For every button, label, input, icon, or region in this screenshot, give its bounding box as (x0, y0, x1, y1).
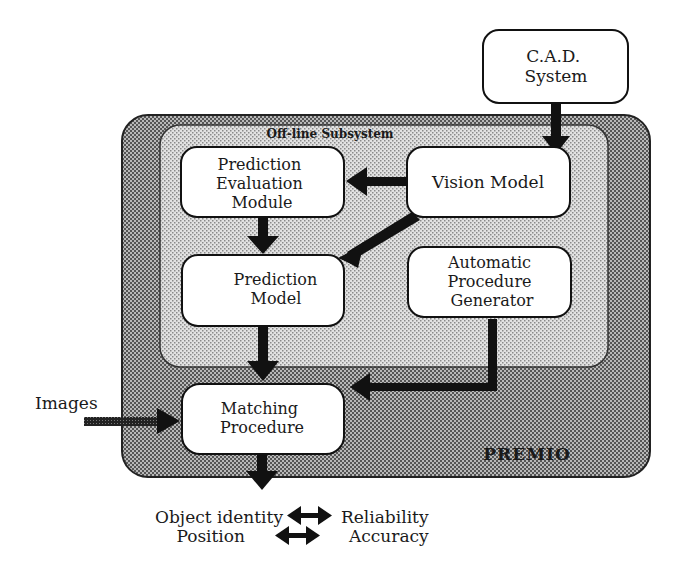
node-matching-procedure: Matching Procedure (182, 384, 344, 454)
matching-line-1: Matching (221, 399, 298, 418)
pem-line-1: Prediction (218, 155, 302, 174)
svg-text:Automatic Procedure: Automatic Procedure Generator (447, 253, 537, 310)
node-vision-model: Vision Model (407, 147, 570, 217)
apg-line-2: Procedure (447, 272, 531, 291)
output-object-identity: Object identity (155, 507, 283, 527)
svg-text:Matching Procedure: Matching Procedure (220, 399, 304, 437)
pem-line-3: Module (231, 193, 292, 212)
matching-line-2: Procedure (220, 418, 304, 437)
vision-line-1: Vision Model (431, 172, 544, 192)
output-position: Position (176, 526, 245, 546)
svg-text:C.A.D. System: C.A.D. System (525, 46, 588, 86)
pm-line-2: Model (251, 289, 302, 308)
offline-subsystem-label: Off-line Subsystem (266, 127, 393, 141)
cad-line-1: C.A.D. (526, 46, 580, 66)
pem-line-2: Evaluation (216, 174, 303, 193)
node-prediction-evaluation-module: Prediction Evaluation Module (181, 147, 344, 217)
images-label: Images (35, 393, 98, 413)
output-reliability: Reliability (341, 507, 429, 527)
node-cad-system: C.A.D. System (483, 30, 628, 103)
double-arrow-icon-1 (287, 506, 332, 525)
premio-diagram: PREMIO Off-line Subsystem (0, 0, 682, 575)
double-arrow-icon-2 (275, 526, 320, 545)
apg-line-3: Generator (451, 291, 534, 310)
svg-text:Vision Model: Vision Model (431, 172, 544, 192)
apg-line-1: Automatic (447, 253, 531, 272)
premio-label: PREMIO (483, 444, 570, 464)
pm-line-1: Prediction (234, 270, 318, 289)
output-accuracy: Accuracy (348, 526, 429, 546)
node-prediction-model: Prediction Model (182, 255, 344, 326)
cad-line-2: System (525, 66, 588, 86)
outputs: Object identity Reliability Position Acc… (155, 506, 429, 546)
node-automatic-procedure-generator: Automatic Procedure Generator (408, 247, 571, 317)
